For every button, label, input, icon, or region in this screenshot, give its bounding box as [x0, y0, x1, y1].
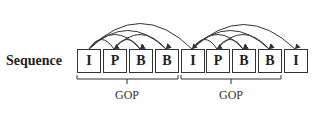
- arc-p2-b3: [217, 40, 243, 50]
- sequence-label: Sequence: [6, 53, 62, 69]
- frame-8-b: B: [258, 49, 282, 73]
- frame-3-b: B: [129, 49, 153, 73]
- arc-i2-p2: [192, 40, 217, 50]
- frame-9-i: I: [284, 49, 308, 73]
- arc-i1-p1: [89, 40, 114, 50]
- frame-6-p: P: [206, 49, 230, 73]
- arc-i2-i3: [192, 25, 295, 50]
- arc-i1-i2: [89, 24, 192, 50]
- frame-2-p: P: [103, 49, 127, 73]
- gop-label-1: GOP: [115, 88, 139, 103]
- frame-5-i: I: [181, 49, 205, 73]
- frame-1-i: I: [77, 49, 101, 73]
- gop-brace-2: [181, 75, 281, 84]
- gop-brace-1: [77, 75, 178, 84]
- arc-p1-b2: [114, 35, 166, 50]
- frame-7-b: B: [232, 49, 256, 73]
- frame-4-b: B: [155, 49, 179, 73]
- arc-p2-b4: [217, 35, 269, 50]
- gop-label-2: GOP: [219, 88, 243, 103]
- arc-p1-b1: [114, 40, 140, 50]
